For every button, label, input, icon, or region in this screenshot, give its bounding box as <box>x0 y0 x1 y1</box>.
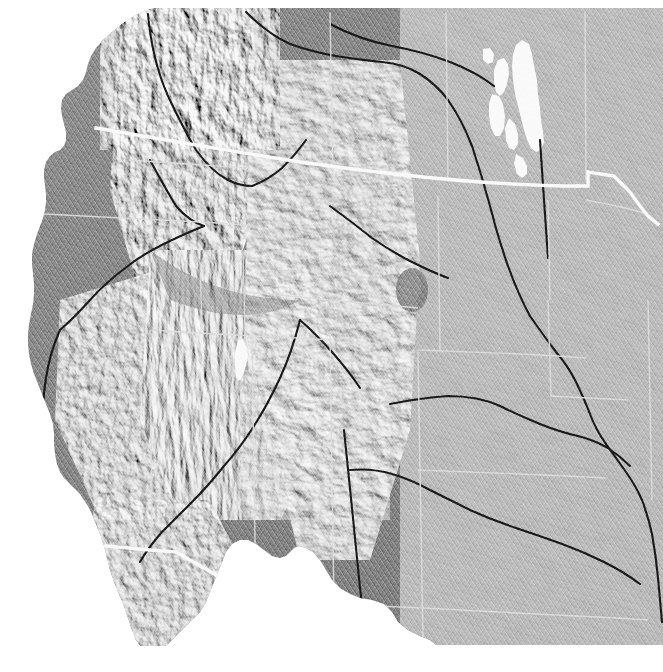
border-us-mexico-newmexico <box>292 604 338 614</box>
relief-canvas <box>0 0 663 672</box>
figure-caption <box>0 646 1 647</box>
bottom-margin <box>0 646 663 672</box>
shaded-relief-map: Shaded relief map of the western United … <box>0 0 663 672</box>
landmass <box>0 0 663 672</box>
